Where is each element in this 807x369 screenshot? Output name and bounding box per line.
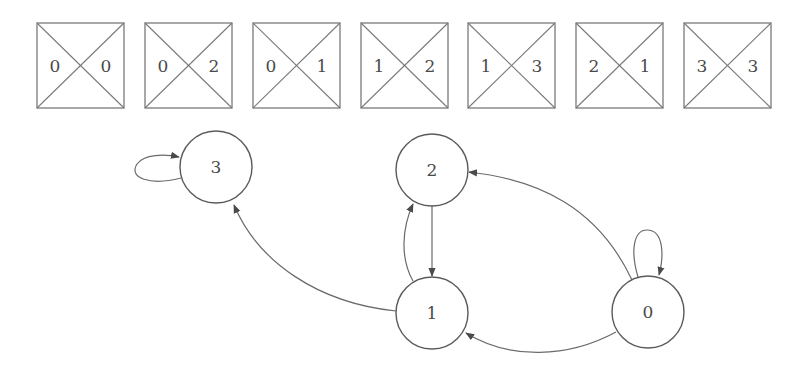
crossed-box-3: 0 1 <box>253 23 340 108</box>
node-2: 2 <box>396 134 468 206</box>
box-left-value: 0 <box>266 56 277 76</box>
box-row: 0 0 0 2 0 1 1 2 <box>37 23 771 108</box>
node-label: 3 <box>211 157 222 177</box>
box-right-value: 3 <box>748 56 759 76</box>
node-label: 2 <box>427 160 438 180</box>
edge-0-to-2 <box>469 172 632 280</box>
box-right-value: 0 <box>101 56 112 76</box>
box-left-value: 0 <box>50 56 61 76</box>
node-1: 1 <box>396 277 468 349</box>
box-left-value: 2 <box>589 56 600 76</box>
crossed-box-6: 2 1 <box>576 23 663 108</box>
node-label: 1 <box>427 303 438 323</box>
box-left-value: 1 <box>374 56 385 76</box>
node-0: 0 <box>612 276 684 348</box>
crossed-box-7: 3 3 <box>684 23 771 108</box>
crossed-box-4: 1 2 <box>361 23 448 108</box>
edge-3-to-3 <box>135 155 181 181</box>
box-left-value: 0 <box>158 56 169 76</box>
node-3: 3 <box>180 131 252 203</box>
edge-1-to-2 <box>404 204 413 281</box>
box-right-value: 1 <box>640 56 651 76</box>
box-right-value: 2 <box>425 56 436 76</box>
crossed-box-1: 0 0 <box>37 23 124 108</box>
edge-0-to-0 <box>634 230 662 277</box>
state-diagram: 0 0 0 2 0 1 1 2 <box>0 0 807 369</box>
edge-0-to-1 <box>466 332 616 352</box>
crossed-box-2: 0 2 <box>145 23 232 108</box>
box-right-value: 2 <box>209 56 220 76</box>
box-right-value: 1 <box>317 56 328 76</box>
box-left-value: 3 <box>697 56 708 76</box>
box-right-value: 3 <box>532 56 543 76</box>
edge-1-to-3 <box>234 205 396 311</box>
node-label: 0 <box>643 302 654 322</box>
crossed-box-5: 1 3 <box>468 23 555 108</box>
box-left-value: 1 <box>481 56 492 76</box>
